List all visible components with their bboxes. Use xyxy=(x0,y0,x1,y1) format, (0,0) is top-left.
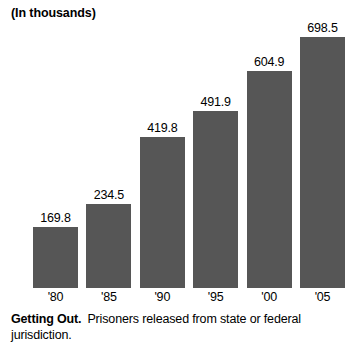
bar xyxy=(140,137,185,288)
bar xyxy=(86,204,131,288)
bar xyxy=(300,37,345,288)
x-tick-label: '00 xyxy=(243,290,296,304)
x-axis-tick-labels: '80'85'90'95'00'05 xyxy=(0,288,359,308)
plot-area: 169.8234.5419.8491.9604.9698.5 xyxy=(0,0,359,288)
x-tick-label: '85 xyxy=(82,290,135,304)
bar-value-label: 604.9 xyxy=(243,55,296,69)
bar-group: 234.5 xyxy=(82,0,135,288)
caption-lead: Getting Out. xyxy=(11,312,81,326)
x-tick-label: '95 xyxy=(189,290,242,304)
bar-value-label: 698.5 xyxy=(296,21,349,35)
bar xyxy=(247,71,292,288)
bar-value-label: 491.9 xyxy=(189,95,242,109)
bar-group: 698.5 xyxy=(296,0,349,288)
x-tick-label: '90 xyxy=(136,290,189,304)
bar xyxy=(33,227,78,288)
caption: Getting Out.Prisoners released from stat… xyxy=(11,311,351,343)
bar-value-label: 234.5 xyxy=(82,188,135,202)
bar-group: 604.9 xyxy=(243,0,296,288)
bar-value-label: 169.8 xyxy=(29,211,82,225)
x-tick-label: '80 xyxy=(29,290,82,304)
bar xyxy=(193,111,238,288)
bar-group: 169.8 xyxy=(29,0,82,288)
bar-group: 419.8 xyxy=(136,0,189,288)
bar-value-label: 419.8 xyxy=(136,121,189,135)
chart-figure: (In thousands) 169.8234.5419.8491.9604.9… xyxy=(0,0,359,347)
bar-group: 491.9 xyxy=(189,0,242,288)
x-tick-label: '05 xyxy=(296,290,349,304)
